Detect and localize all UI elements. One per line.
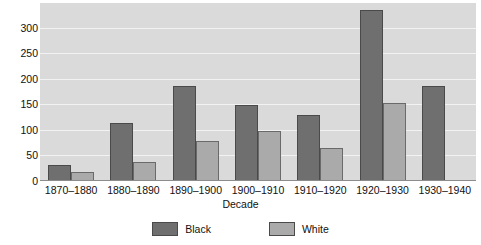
bar-black-1880–1890[interactable]: [110, 123, 133, 181]
x-axis-tick-label: 1870–1880: [40, 184, 102, 196]
x-axis-tick-label: 1890–1900: [165, 184, 227, 196]
bar-white-1890–1900[interactable]: [196, 141, 219, 181]
x-axis-tick-label: 1900–1910: [227, 184, 289, 196]
legend-label: Black: [185, 223, 211, 235]
bar-group: [173, 3, 219, 181]
bar-group: [110, 3, 156, 181]
bar-white-1920–1930[interactable]: [383, 103, 406, 181]
bar-group: [297, 3, 343, 181]
bar-black-1910–1920[interactable]: [297, 115, 320, 181]
x-axis-line: [40, 180, 476, 181]
x-axis-tick-label: 1880–1890: [102, 184, 164, 196]
y-axis-tick-label: 300: [2, 22, 38, 33]
bar-black-1930–1940[interactable]: [422, 86, 445, 181]
bar-chart: 050100150200250300 1870–18801880–1890189…: [0, 0, 481, 245]
legend-label: White: [302, 223, 329, 235]
legend-item-black[interactable]: Black: [152, 222, 211, 236]
bar-group: [235, 3, 281, 181]
y-axis-tick-label: 150: [2, 99, 38, 110]
bar-black-1900–1910[interactable]: [235, 105, 258, 181]
y-axis-tick-label: 100: [2, 125, 38, 136]
y-axis-tick-label: 250: [2, 48, 38, 59]
bar-black-1920–1930[interactable]: [360, 10, 383, 181]
legend-swatch-icon: [269, 222, 295, 236]
bar-group: [48, 3, 94, 181]
chart-legend: BlackWhite: [0, 222, 481, 236]
y-axis-tick-label: 0: [2, 176, 38, 187]
bar-black-1870–1880[interactable]: [48, 165, 71, 181]
legend-swatch-icon: [152, 222, 178, 236]
bar-black-1890–1900[interactable]: [173, 86, 196, 181]
y-axis-tick-label: 50: [2, 150, 38, 161]
x-axis-tick-label: 1910–1920: [289, 184, 351, 196]
bar-group: [360, 3, 406, 181]
bars-layer: [40, 3, 476, 181]
bar-white-1900–1910[interactable]: [258, 131, 281, 181]
bar-white-1880–1890[interactable]: [133, 162, 156, 181]
legend-item-white[interactable]: White: [269, 222, 329, 236]
x-axis-tick-label: 1920–1930: [351, 184, 413, 196]
x-axis-title: Decade: [0, 198, 481, 210]
bar-group: [422, 3, 468, 181]
y-axis-tick-label: 200: [2, 73, 38, 84]
x-axis-tick-label: 1930–1940: [414, 184, 476, 196]
bar-white-1910–1920[interactable]: [320, 148, 343, 181]
